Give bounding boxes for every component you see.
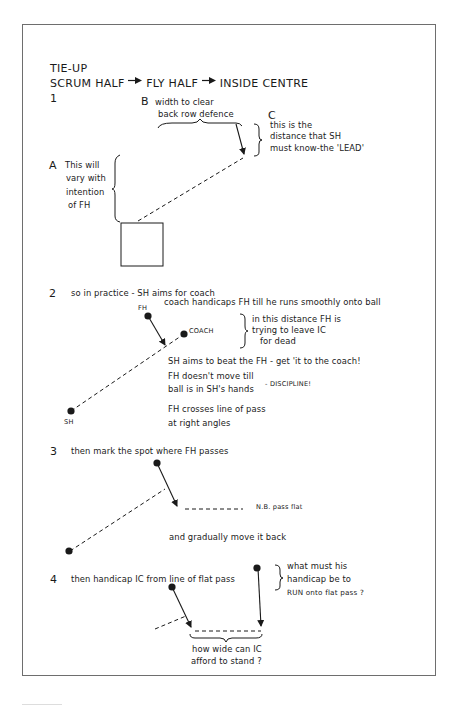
brace-b-icon [158,119,242,128]
a-line-3: intention [66,188,104,196]
label-b: B [141,96,149,107]
a-line-2: vary with [66,174,106,182]
pass-dashed-line-4 [155,616,186,629]
coach-note: coach handicaps FH till he runs smoothly… [164,298,381,306]
move-line-1: FH doesn't move till [168,372,254,380]
c-line-1: this is the [270,121,312,129]
width-line-2: afford to stand ? [191,657,262,665]
question-line-3: RUN onto flat pass ? [287,589,364,596]
section-1-number: 1 [50,93,57,104]
section-3-number: 3 [50,446,57,457]
scrum-box [121,223,163,266]
nb-pass-flat: N.B. pass flat [256,504,303,511]
label-a: A [49,160,57,171]
ic-dot-left [168,583,175,590]
c-line-2: distance that SH [270,132,341,140]
fh-dot [144,312,151,319]
beat-note: SH aims to beat the FH - get 'it to the … [168,357,361,365]
section-4-intro: then handicap IC from line of flat pass [71,575,235,583]
diagram-drawing [0,0,460,705]
sh-dot [67,407,74,414]
a-line-1: This will [65,161,100,169]
sh-dot-3 [65,547,72,554]
discipline-note: - DISCIPLINE! [265,381,311,388]
fh-run-arrow-3 [157,463,177,506]
distance-line-3: for dead [260,337,296,345]
move-back-note: and gradually move it back [169,533,286,541]
brace-c-icon [254,124,262,156]
brace-question-icon [275,565,283,590]
ic-run-arrow-right [258,568,261,626]
question-line-1: what must his [287,562,347,570]
brace-width-icon [190,634,262,642]
sh-label: SH [64,419,74,426]
coach-label: COACH [189,328,214,335]
brace-a-icon [112,155,120,222]
section-4-number: 4 [50,574,57,585]
question-line-2: handicap be to [287,575,351,583]
fh-dot-3 [153,459,160,466]
move-line-2: ball is in SH's hands [168,385,254,393]
a-line-4: of FH [68,201,90,209]
lead-dashed-line [138,158,243,221]
distance-line-2: trying to leave IC [252,326,326,334]
b-line-2: back row defence [158,110,234,118]
ic-dot-right [253,564,260,571]
brace-distance-icon [240,314,248,348]
section-3-intro: then mark the spot where FH passes [71,447,228,455]
pass-dashed-line-3 [70,489,165,551]
cross-line-2: at right angles [168,419,231,427]
b-line-1: width to clear [155,98,214,106]
section-2-number: 2 [49,288,56,299]
arrow-b-icon [236,124,244,154]
fh-label: FH [138,305,147,312]
cross-line-1: FH crosses line of pass [168,405,266,413]
c-line-3: must know-the 'LEAD' [270,144,364,152]
width-line-1: how wide can IC [192,645,262,653]
fh-run-arrow [148,316,165,345]
coach-dot [180,330,187,337]
distance-line-1: in this distance FH is [252,315,341,323]
